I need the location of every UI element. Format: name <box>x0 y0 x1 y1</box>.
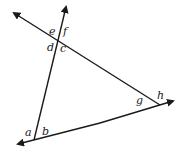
line-descending <box>14 13 160 105</box>
angle-diagram: e f d c g h a b <box>0 0 175 147</box>
angle-label-a: a <box>25 126 32 139</box>
angle-label-f: f <box>62 25 69 38</box>
angle-label-b: b <box>42 125 49 138</box>
angle-label-h: h <box>157 89 164 102</box>
angle-label-g: g <box>136 94 143 107</box>
angle-label-e: e <box>49 25 56 38</box>
angle-label-c: c <box>60 42 66 55</box>
angle-label-d: d <box>47 41 54 54</box>
